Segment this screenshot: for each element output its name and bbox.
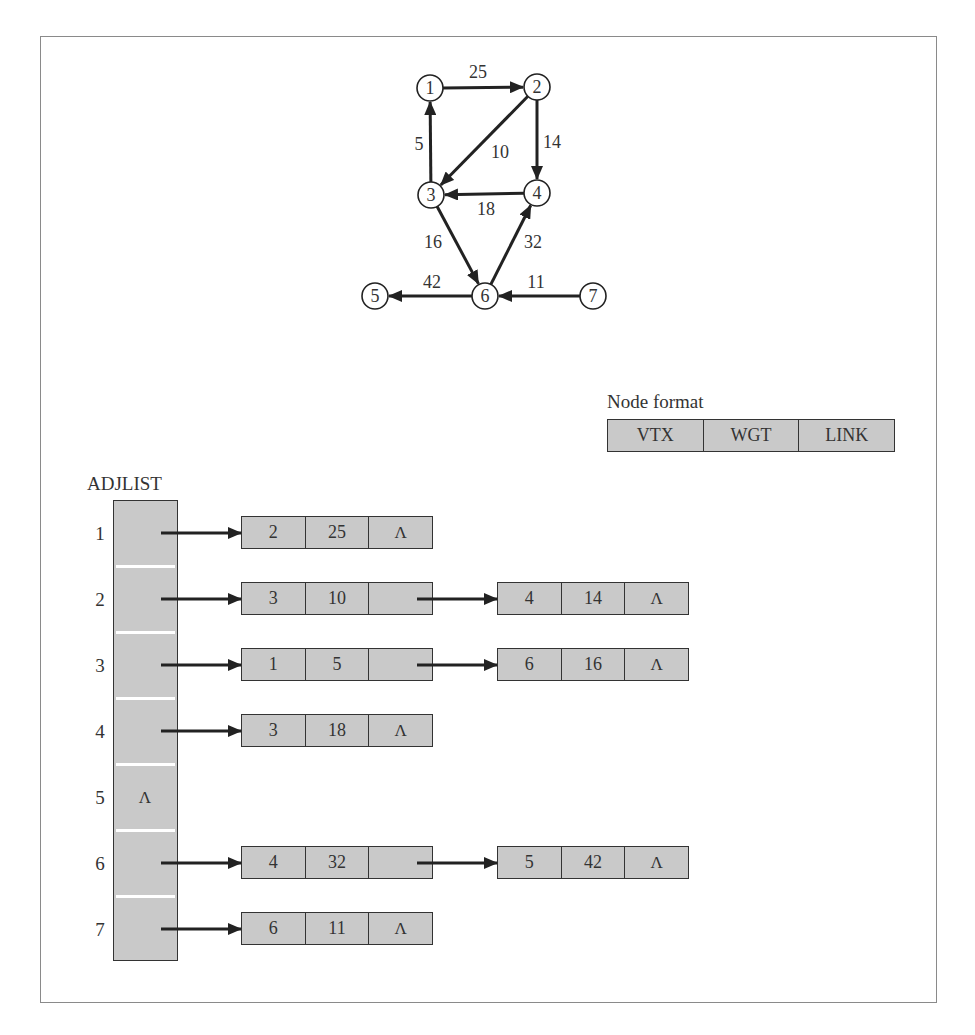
- list-node-link: Λ: [369, 517, 432, 548]
- list-node: 225Λ: [241, 516, 433, 549]
- node-format-title: Node format: [607, 392, 704, 411]
- list-node: 414Λ: [497, 582, 689, 615]
- list-node-wgt: 10: [306, 583, 370, 614]
- list-node: 542Λ: [497, 846, 689, 879]
- adjlist-row-index: 7: [93, 919, 107, 941]
- adjlist-row-index: 4: [93, 721, 107, 743]
- adjlist-row-divider: [116, 697, 175, 700]
- list-node-wgt: 11: [306, 913, 370, 944]
- list-node: 310: [241, 582, 433, 615]
- list-node-link: Λ: [625, 649, 688, 680]
- list-node-link: Λ: [369, 913, 432, 944]
- list-node-wgt: 32: [306, 847, 370, 878]
- node-format-field-vtx: VTX: [608, 420, 704, 451]
- list-node-vtx: 1: [242, 649, 306, 680]
- list-node: 432: [241, 846, 433, 879]
- node-format-field-wgt: WGT: [704, 420, 800, 451]
- list-node-vtx: 3: [242, 715, 306, 746]
- list-node-wgt: 25: [306, 517, 370, 548]
- adjlist-row-divider: [116, 763, 175, 766]
- list-node-vtx: 4: [498, 583, 562, 614]
- list-node-wgt: 14: [562, 583, 626, 614]
- list-node-link: [369, 649, 432, 680]
- list-node: 15: [241, 648, 433, 681]
- list-node-link: Λ: [625, 847, 688, 878]
- list-node-wgt: 5: [306, 649, 370, 680]
- list-node-vtx: 4: [242, 847, 306, 878]
- list-node-link: Λ: [369, 715, 432, 746]
- adjlist-row-index: 2: [93, 589, 107, 611]
- adjlist-row-index: 5: [93, 787, 107, 809]
- adjlist-row-index: 6: [93, 853, 107, 875]
- node-format-field-link: LINK: [799, 420, 894, 451]
- list-node-vtx: 5: [498, 847, 562, 878]
- list-node-wgt: 18: [306, 715, 370, 746]
- list-node: 611Λ: [241, 912, 433, 945]
- adjlist-row-divider: [116, 631, 175, 634]
- list-node-vtx: 6: [498, 649, 562, 680]
- list-node-wgt: 42: [562, 847, 626, 878]
- list-node-link: [369, 583, 432, 614]
- list-node-vtx: 3: [242, 583, 306, 614]
- list-node: 318Λ: [241, 714, 433, 747]
- adjlist-row-index: 1: [93, 523, 107, 545]
- adjlist-row-divider: [116, 565, 175, 568]
- adjlist-head-array: Λ: [113, 500, 178, 961]
- null-pointer-symbol: Λ: [114, 788, 176, 808]
- adjlist-row-divider: [116, 829, 175, 832]
- adjlist-row-divider: [116, 895, 175, 898]
- node-format-box: VTX WGT LINK: [607, 419, 895, 452]
- list-node-wgt: 16: [562, 649, 626, 680]
- list-node-link: [369, 847, 432, 878]
- adjlist-row-index: 3: [93, 655, 107, 677]
- list-node-link: Λ: [625, 583, 688, 614]
- adjlist-title: ADJLIST: [87, 474, 162, 493]
- list-node: 616Λ: [497, 648, 689, 681]
- list-node-vtx: 6: [242, 913, 306, 944]
- list-node-vtx: 2: [242, 517, 306, 548]
